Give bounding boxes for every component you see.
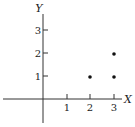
y-tick-label: 2	[35, 48, 41, 59]
data-point	[112, 75, 116, 79]
data-points	[88, 52, 116, 79]
x-tick-label: 3	[111, 102, 117, 113]
x-ticks: 1 2 3	[64, 94, 117, 113]
y-ticks: 1 2 3	[35, 25, 48, 82]
scatter-plot: Y X 1 2 3 1 2 3	[0, 0, 135, 127]
x-axis-label: X	[123, 93, 133, 106]
y-axis-label: Y	[35, 2, 44, 15]
x-tick-label: 2	[87, 102, 93, 113]
y-tick-label: 1	[35, 71, 41, 82]
x-tick-label: 1	[64, 102, 70, 113]
data-point	[112, 52, 116, 56]
y-tick-label: 3	[35, 25, 41, 36]
data-point	[88, 75, 92, 79]
